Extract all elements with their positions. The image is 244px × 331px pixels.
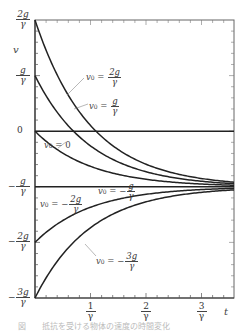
v-axis-label: v xyxy=(13,44,19,55)
fraction: 3gγ xyxy=(125,252,138,270)
fraction: 2gγ xyxy=(69,195,82,213)
figure-caption: 図 抵抗を受ける物体の速度の時間変化 xyxy=(18,320,170,331)
fraction: gγ xyxy=(111,97,118,115)
curve-label: v0 = −2gγ xyxy=(40,195,82,213)
x-tick-label: 2γ xyxy=(141,302,151,321)
curve-v0-2 xyxy=(35,20,234,182)
y-tick-label: 2gγ xyxy=(16,10,30,29)
curve-label: v0 = gγ xyxy=(89,97,119,115)
curve-label: v0 = 0 xyxy=(44,140,71,150)
leader-line xyxy=(67,78,84,95)
y-tick-label: gγ xyxy=(16,66,30,85)
minus-sign: − xyxy=(8,292,16,302)
minus-sign: − xyxy=(8,181,16,191)
curve-v0-1 xyxy=(35,76,234,184)
y-tick-label: 2gγ xyxy=(16,232,30,251)
fraction: 2gγ xyxy=(108,68,121,86)
x-tick-label: 1γ xyxy=(86,302,96,321)
curve-label: v0 = 2gγ xyxy=(86,68,121,86)
curve-label: v0 = −gγ xyxy=(98,182,135,200)
fraction: gγ xyxy=(127,182,134,200)
leader-line xyxy=(85,244,96,256)
y-tick-label: 3gγ xyxy=(16,288,30,307)
t-axis-label: t xyxy=(224,306,228,317)
y-tick-label: 0 xyxy=(16,126,24,135)
velocity-chart xyxy=(0,0,244,331)
curve-label: v0 = −3gγ xyxy=(96,252,138,270)
x-tick-label: 3γ xyxy=(197,302,207,321)
y-tick-label: gγ xyxy=(16,177,30,196)
minus-sign: − xyxy=(8,236,16,246)
